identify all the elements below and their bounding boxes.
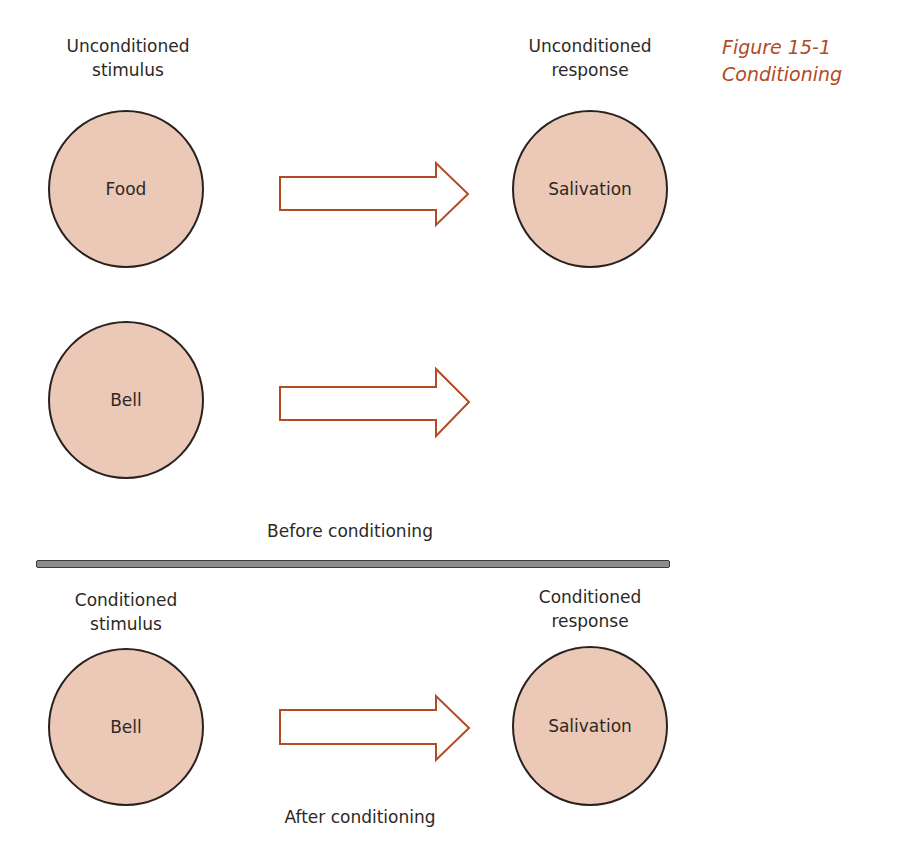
section-divider [36, 560, 670, 568]
salivation-node: Salivation [512, 110, 668, 268]
figure-number: Figure 15-1 [722, 34, 842, 61]
arrow-right-icon [276, 158, 476, 232]
conditioned-response-label: Conditioned response [500, 585, 680, 633]
arrow-right-icon [276, 692, 476, 766]
figure-title: Conditioning [722, 61, 842, 88]
arrow-right-icon [276, 364, 476, 440]
before-conditioning-caption: Before conditioning [220, 520, 480, 542]
unconditioned-stimulus-label: Unconditioned stimulus [38, 34, 218, 82]
bell-node: Bell [48, 648, 204, 806]
unconditioned-response-label: Unconditioned response [500, 34, 680, 82]
after-conditioning-caption: After conditioning [230, 806, 490, 828]
food-node: Food [48, 110, 204, 268]
salivation-node: Salivation [512, 646, 668, 806]
bell-node: Bell [48, 321, 204, 479]
conditioned-stimulus-label: Conditioned stimulus [36, 588, 216, 636]
figure-caption: Figure 15-1 Conditioning [722, 34, 842, 88]
